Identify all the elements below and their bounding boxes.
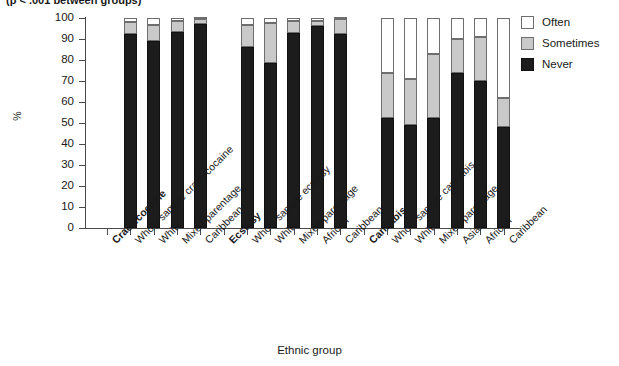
- chart-legend: OftenSometimesNever: [521, 13, 617, 76]
- x-axis-title: Ethnic group: [0, 344, 619, 356]
- y-tick-label: 70: [14, 75, 74, 87]
- bar-segment-sometimes: [147, 25, 160, 41]
- bar-segment-often: [334, 17, 347, 19]
- y-tick-mark: [79, 207, 85, 208]
- bar-segment-often: [124, 18, 137, 22]
- y-tick-label: 90: [14, 33, 74, 45]
- y-tick-mark: [79, 60, 85, 61]
- bar: [497, 18, 510, 228]
- bar-segment-often: [404, 18, 417, 79]
- bar-segment-often: [497, 18, 510, 98]
- bar: [194, 18, 207, 228]
- legend-swatch: [521, 37, 534, 50]
- bar-segment-often: [311, 18, 324, 21]
- y-tick-mark: [79, 18, 85, 19]
- bar: [404, 18, 417, 228]
- bar-segment-sometimes: [334, 19, 347, 34]
- bar-segment-never: [241, 47, 254, 228]
- bar-segment-often: [427, 18, 440, 54]
- y-tick-mark: [79, 186, 85, 187]
- y-tick-mark: [79, 228, 85, 229]
- bar-segment-sometimes: [474, 37, 487, 81]
- bar-segment-sometimes: [171, 21, 184, 32]
- y-tick-mark: [79, 144, 85, 145]
- bar-segment-sometimes: [264, 23, 277, 63]
- y-tick-label: 10: [14, 201, 74, 213]
- bar-segment-often: [264, 18, 277, 23]
- bar-segment-often: [451, 18, 464, 39]
- legend-label: Sometimes: [542, 36, 600, 50]
- y-tick-label: 60: [14, 96, 74, 108]
- bar-segment-sometimes: [404, 79, 417, 125]
- y-tick-label: 50: [14, 117, 74, 129]
- bar: [451, 18, 464, 228]
- bar: [311, 18, 324, 228]
- legend-label: Often: [542, 15, 570, 29]
- bar: [241, 18, 254, 228]
- bar-segment-often: [474, 18, 487, 37]
- legend-swatch: [521, 16, 534, 29]
- bar-segment-never: [194, 24, 207, 228]
- bar-segment-sometimes: [241, 25, 254, 47]
- y-tick-mark: [79, 102, 85, 103]
- y-tick-mark: [79, 39, 85, 40]
- bar-segment-sometimes: [287, 21, 300, 33]
- bar-segment-often: [194, 17, 207, 19]
- bar-segment-often: [287, 18, 300, 21]
- x-tick-mark: [107, 229, 108, 235]
- bar: [124, 18, 137, 228]
- bar-segment-never: [497, 127, 510, 228]
- bar-segment-never: [451, 73, 464, 228]
- bar: [264, 18, 277, 228]
- bar-segment-sometimes: [194, 19, 207, 24]
- y-tick-label: 20: [14, 180, 74, 192]
- legend-item: Often: [521, 13, 617, 34]
- bar-segment-often: [147, 18, 160, 25]
- stacked-bar-chart: (p < .001 between groups) % 010203040506…: [0, 0, 619, 366]
- legend-swatch: [521, 58, 534, 71]
- legend-label: Never: [542, 57, 573, 71]
- legend-item: Sometimes: [521, 34, 617, 55]
- y-tick-mark: [79, 123, 85, 124]
- y-tick-mark: [79, 81, 85, 82]
- y-tick-label: 0: [14, 222, 74, 234]
- bar-segment-often: [241, 18, 254, 25]
- bar-segment-often: [381, 18, 394, 73]
- bar-segment-often: [171, 18, 184, 21]
- bar-segment-sometimes: [497, 98, 510, 127]
- bar-segment-sometimes: [311, 21, 324, 26]
- bar-segment-sometimes: [381, 73, 394, 118]
- y-tick-mark: [79, 165, 85, 166]
- bar-segment-never: [124, 34, 137, 228]
- bar-segment-sometimes: [124, 22, 137, 34]
- y-tick-label: 40: [14, 138, 74, 150]
- bar: [381, 18, 394, 228]
- bar-segment-sometimes: [427, 54, 440, 118]
- bar-segment-never: [311, 26, 324, 228]
- y-tick-label: 100: [14, 12, 74, 24]
- clipped-figure-title: (p < .001 between groups): [6, 0, 306, 6]
- legend-item: Never: [521, 55, 617, 76]
- y-tick-label: 80: [14, 54, 74, 66]
- bar-segment-never: [264, 63, 277, 228]
- y-tick-label: 30: [14, 159, 74, 171]
- bar-segment-sometimes: [451, 39, 464, 73]
